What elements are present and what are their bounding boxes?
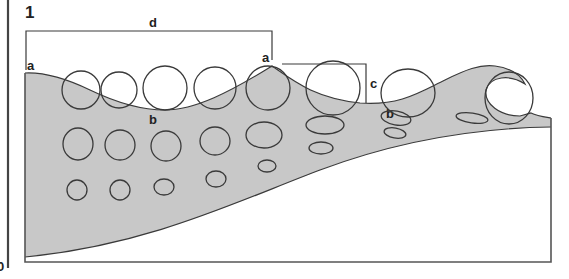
- trough-label-left: b: [149, 112, 157, 127]
- wavelength-label: d: [149, 15, 157, 30]
- wave-orbit-diagram: 0 1 d a a b b c: [0, 0, 569, 279]
- figure-number: 1: [25, 3, 34, 22]
- crest-label-right: a: [262, 50, 270, 65]
- wave-height-label: c: [370, 76, 377, 91]
- crest-label-left: a: [27, 58, 35, 73]
- cut-off-label: 0: [0, 259, 4, 274]
- water-body: [25, 66, 551, 257]
- orbit: [143, 66, 187, 110]
- wavelength-bracket: [26, 31, 272, 70]
